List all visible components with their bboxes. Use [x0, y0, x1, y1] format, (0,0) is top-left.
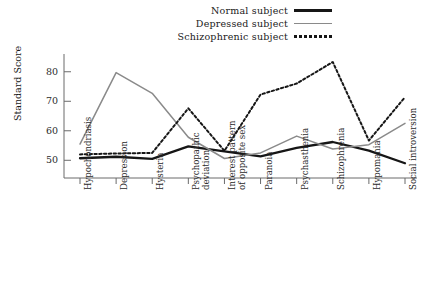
y-tick-50: 50 [32, 154, 58, 165]
x-tick-label: Psychopathicdeviation [192, 132, 211, 190]
x-tick-label: Social introversion [409, 108, 419, 190]
x-tick-label: Psychasthenia [301, 128, 311, 190]
plot-canvas [0, 0, 429, 299]
y-axis-title: Standard Score [12, 34, 23, 134]
x-tick-label: Interest patternof opposite sex [228, 120, 247, 190]
x-tick-label: Hypochondriasis [84, 117, 94, 190]
x-tick-label: Depression [120, 141, 130, 190]
x-tick-label: Hysteria [156, 153, 166, 190]
x-tick-label: Hypomania [373, 140, 383, 190]
y-tick-60: 60 [32, 125, 58, 136]
plot-area: Standard Score 50607080 HypochondriasisD… [0, 0, 429, 299]
y-tick-70: 70 [32, 95, 58, 106]
y-tick-80: 80 [32, 66, 58, 77]
mmpi-profile-chart: Normal subject Depressed subject Schizop… [0, 0, 429, 299]
x-tick-label: Paranoia [265, 152, 275, 190]
x-tick-label: Schizophrenia [337, 128, 347, 190]
